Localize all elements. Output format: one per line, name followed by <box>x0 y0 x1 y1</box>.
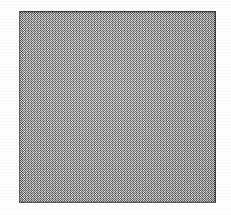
plate-edge-shading <box>20 12 215 202</box>
screenshot-canvas <box>0 0 231 215</box>
halftone-dither-layer <box>20 12 215 202</box>
plate-inner-text <box>19 11 20 12</box>
plate-illumination-shading <box>20 12 215 202</box>
halftone-dither-layer-secondary <box>20 12 215 202</box>
gray-plate-rectangle <box>19 11 216 203</box>
